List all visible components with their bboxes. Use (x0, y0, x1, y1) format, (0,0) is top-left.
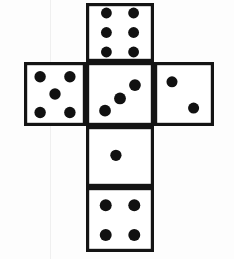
bottom-face-pip (128, 199, 140, 211)
top-face (88, 5, 153, 61)
bottom-face-pip (100, 199, 112, 211)
left-face-pip (34, 71, 45, 82)
left-face-pip (34, 107, 45, 118)
bottom-face-pip (100, 229, 112, 241)
cube-net-figure: Cube net of a die Unfolded cube net arra… (0, 0, 234, 259)
center-face-pip (114, 93, 126, 105)
left-face-pip (64, 107, 75, 118)
cube-net-diagram (0, 0, 234, 259)
faces-layer (26, 5, 213, 251)
right-face-pip (188, 103, 199, 114)
center-face-pip (129, 79, 141, 91)
top-face-pip (128, 47, 139, 58)
lower-middle-face-pip (110, 150, 121, 161)
bottom-face-pip (128, 229, 140, 241)
top-face-pip (101, 8, 112, 19)
top-face-pip (101, 27, 112, 38)
right-face (156, 64, 213, 125)
bottom-face (88, 189, 153, 251)
top-face-pip (128, 8, 139, 19)
right-face-pip (166, 76, 177, 87)
top-face-pip (128, 27, 139, 38)
left-face-pip (64, 71, 75, 82)
top-face-pip (101, 47, 112, 58)
left-face-pip (49, 88, 60, 99)
center-face-pip (99, 105, 111, 117)
